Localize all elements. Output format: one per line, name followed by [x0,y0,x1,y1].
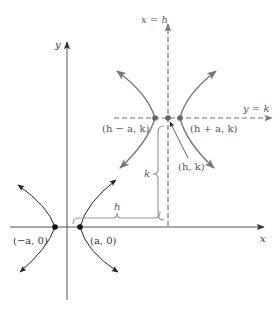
center-pointer-arrow [170,122,188,158]
vertex-point-neg-a [52,224,58,230]
original-hyperbola-left-branch [18,185,55,272]
brace-k [153,126,164,220]
vertex-point-h-minus-a [152,115,158,121]
original-hyperbola-right-branch [80,180,118,272]
vertex-label-h-minus-a: (h − a, k) [102,123,149,134]
hyperbola-translation-diagram: y x x = h y = k (−a, 0) (a, 0) (h − a, k… [0,0,280,315]
y-axis-label: y [54,39,61,50]
vertex-label-pos-a: (a, 0) [90,235,117,246]
vertex-label-neg-a: (−a, 0) [13,235,48,246]
line-x-equals-h-label: x = h [141,14,168,25]
line-y-equals-k-label: y = k [242,103,269,114]
vertex-label-h-plus-a: (h + a, k) [190,123,237,134]
center-label-h-k: (h, k) [178,161,205,172]
vertex-point-h-plus-a [177,115,183,121]
brace-k-label: k [144,168,150,179]
center-point-h-k [165,115,171,121]
brace-h-label: h [114,201,120,212]
translated-hyperbola-left-branch [117,71,155,168]
brace-h [73,212,160,224]
vertex-point-pos-a [77,224,83,230]
x-axis-label: x [260,233,266,244]
